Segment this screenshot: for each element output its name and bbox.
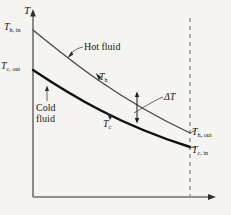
y-axis-label: T bbox=[24, 5, 30, 17]
label-t-c-curve-sub: c bbox=[109, 123, 112, 130]
label-t-h-in-main: T bbox=[4, 21, 10, 32]
label-t-h-out-sub: h, out bbox=[198, 131, 212, 138]
label-cold-fluid: Cold fluid bbox=[36, 103, 55, 124]
label-t-c-out-sub: c, out bbox=[7, 65, 21, 72]
label-cold-fluid-line2: fluid bbox=[36, 114, 55, 125]
label-t-c-curve-main: T bbox=[103, 118, 109, 129]
label-t-c-in: Tc, in bbox=[192, 145, 208, 156]
x-axis-arrowhead bbox=[208, 194, 216, 200]
label-hot-fluid: Hot fluid bbox=[84, 42, 120, 53]
delta-t-arrowhead-down bbox=[135, 118, 139, 124]
label-delta-t: ΔT bbox=[164, 92, 175, 103]
label-t-h-curve-sub: h bbox=[105, 76, 108, 83]
cold-fluid-curve bbox=[33, 70, 190, 147]
label-t-c-out-main: T bbox=[1, 60, 7, 71]
delta-t-arrowhead-up bbox=[135, 92, 139, 98]
y-axis-arrowhead bbox=[30, 9, 36, 17]
label-t-c-in-main: T bbox=[192, 144, 198, 155]
label-t-h-curve-main: T bbox=[99, 71, 105, 82]
label-t-h-curve: Th bbox=[99, 72, 108, 83]
label-cold-fluid-line1: Cold bbox=[36, 103, 55, 114]
diagram-canvas bbox=[0, 0, 231, 215]
cold-fluid-leader-arrowhead bbox=[45, 86, 49, 92]
label-t-c-curve: Tc bbox=[103, 119, 111, 130]
y-axis-label-main: T bbox=[24, 4, 30, 16]
heat-exchanger-temperature-diagram: T Th, in Tc, out Hot fluid Cold fluid Th… bbox=[0, 0, 231, 215]
label-t-h-in-sub: h, in bbox=[10, 26, 21, 33]
label-t-h-out-main: T bbox=[192, 126, 198, 137]
label-t-h-in: Th, in bbox=[4, 22, 21, 33]
label-t-c-in-sub: c, in bbox=[198, 149, 209, 156]
label-t-c-out: Tc, out bbox=[1, 61, 20, 72]
label-t-h-out: Th, out bbox=[192, 127, 212, 138]
